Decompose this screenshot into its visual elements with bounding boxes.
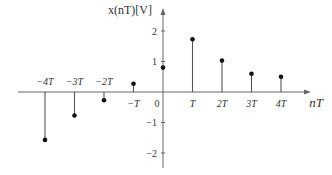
stem-marker	[72, 113, 77, 118]
x-tick-label: 2T	[217, 98, 229, 109]
x-tick-label: T	[190, 98, 197, 109]
stem-marker	[220, 58, 225, 63]
y-tick-label: −1	[146, 117, 157, 128]
stem-marker	[279, 74, 284, 79]
axes	[18, 8, 311, 168]
stem-marker	[249, 71, 254, 76]
stem-marker	[43, 138, 48, 143]
x-axis-arrow-icon	[304, 90, 311, 95]
stem-marker	[131, 81, 136, 86]
x-axis-label: nT	[309, 95, 324, 110]
y-axis-label: x(nT)[V]	[108, 3, 152, 17]
stem-marker	[161, 65, 166, 70]
x-tick-label: −T	[127, 98, 141, 109]
x-tick-label: −3T	[66, 76, 85, 87]
x-tick-label: 0	[155, 98, 160, 109]
y-tick-label: 1	[152, 56, 157, 67]
y-tick-label: 2	[152, 26, 157, 37]
x-tick-label: 3T	[245, 98, 258, 109]
x-tick-label: −4T	[36, 76, 55, 87]
y-axis-arrow-icon	[161, 8, 166, 15]
stem-plot: x(nT)[V] nT 21−1−2−4T−3T−2T−T0T2T3T4T	[0, 0, 332, 175]
x-tick-label: −2T	[95, 76, 114, 87]
y-tick-label: −2	[146, 148, 157, 159]
stem-marker	[190, 37, 195, 42]
x-tick-label: 4T	[276, 98, 288, 109]
stem-marker	[102, 98, 107, 103]
